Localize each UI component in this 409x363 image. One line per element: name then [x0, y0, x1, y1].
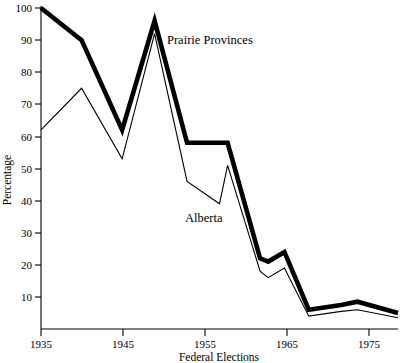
y-tick-label-10: 10: [21, 291, 33, 303]
y-axis-ticks: [35, 8, 41, 297]
y-tick-label-20: 20: [21, 259, 33, 271]
y-axis: 100 90 80 70 60 50 40 30 20 10 Percentag…: [1, 2, 41, 329]
x-axis: 1935 1945 1955 1965 1975 Federal Electio…: [30, 329, 398, 363]
x-tick-label-1935: 1935: [30, 338, 53, 350]
series-annotations: Prairie Provinces Alberta: [167, 33, 253, 225]
series-annotation-alberta: Alberta: [185, 211, 223, 225]
y-axis-title: Percentage: [1, 155, 14, 205]
y-tick-label-30: 30: [21, 227, 33, 239]
x-tick-label-1955: 1955: [194, 338, 217, 350]
line-chart: 100 90 80 70 60 50 40 30 20 10 Percentag…: [0, 0, 409, 363]
chart-canvas: 100 90 80 70 60 50 40 30 20 10 Percentag…: [0, 0, 409, 363]
series-line-prairie-provinces: [41, 8, 398, 313]
x-axis-title: Federal Elections: [179, 351, 260, 363]
y-tick-label-40: 40: [21, 195, 33, 207]
x-tick-label-1965: 1965: [276, 338, 299, 350]
y-tick-label-60: 60: [21, 131, 33, 143]
y-tick-label-100: 100: [16, 2, 33, 14]
y-axis-tick-labels: 100 90 80 70 60 50 40 30 20 10: [16, 2, 33, 303]
series-line-alberta: [41, 34, 398, 318]
series-annotation-prairie-provinces: Prairie Provinces: [167, 33, 253, 47]
y-tick-label-90: 90: [21, 34, 33, 46]
x-tick-label-1975: 1975: [358, 338, 381, 350]
x-axis-tick-labels: 1935 1945 1955 1965 1975: [30, 338, 381, 350]
y-tick-label-80: 80: [21, 66, 33, 78]
series-group: [41, 8, 398, 318]
y-tick-label-50: 50: [21, 163, 33, 175]
y-tick-label-70: 70: [21, 98, 33, 110]
x-tick-label-1945: 1945: [112, 338, 135, 350]
x-axis-ticks: [41, 329, 369, 336]
